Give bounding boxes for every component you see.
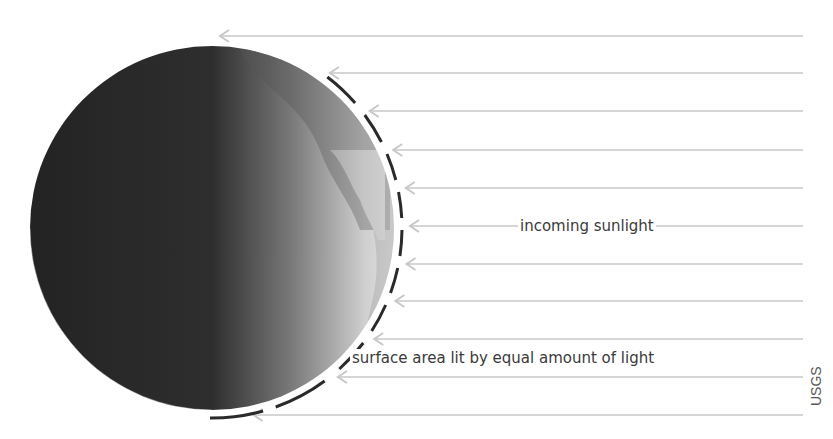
earth-globe: [30, 40, 400, 410]
usgs-credit: USGS: [808, 366, 824, 406]
arc-dash: [391, 268, 398, 293]
incoming-sunlight-label: incoming sunlight: [518, 217, 656, 235]
arc-dash: [387, 154, 396, 180]
surface-area-label: surface area lit by equal amount of ligh…: [350, 349, 656, 367]
arc-dash: [400, 230, 402, 256]
arc-dash: [399, 192, 402, 218]
sunlight-diagram: [0, 0, 833, 439]
